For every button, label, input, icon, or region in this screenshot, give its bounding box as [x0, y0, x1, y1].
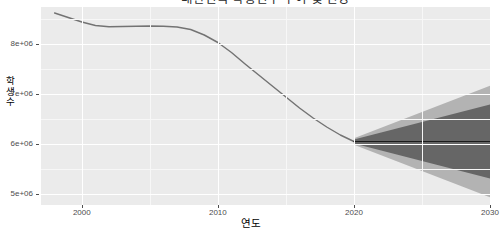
gridline-major-vertical	[82, 7, 83, 205]
x-axis-tick-mark	[490, 205, 491, 208]
x-axis-tick-mark	[354, 205, 355, 208]
gridline-minor-vertical	[150, 7, 151, 205]
y-axis-tick-label: 8e+06	[0, 40, 33, 48]
gridline-minor-vertical	[286, 7, 287, 205]
gridline-major-vertical	[218, 7, 219, 205]
x-axis-tick-mark	[218, 205, 219, 208]
gridline-major-horizontal	[41, 194, 490, 195]
y-axis-tick-mark	[36, 194, 39, 195]
historical-line	[55, 13, 354, 142]
plot-panel	[41, 7, 490, 205]
y-axis-tick-label: 7e+06	[0, 90, 33, 98]
chart-figure: 대한민국 학령인구 추이 및 전망 학 생 수 5e+066e+067e+068…	[0, 0, 501, 235]
x-axis-tick-mark	[82, 205, 83, 208]
gridline-major-vertical	[354, 7, 355, 205]
gridline-minor-vertical	[422, 7, 423, 205]
y-axis-tick-mark	[36, 144, 39, 145]
y-axis-tick-mark	[36, 94, 39, 95]
y-axis-tick-label: 6e+06	[0, 140, 33, 148]
y-axis-title-char: 학	[4, 76, 17, 87]
gridline-major-horizontal	[41, 44, 490, 45]
gridline-major-horizontal	[41, 94, 490, 95]
chart-title: 대한민국 학령인구 추이 및 전망	[41, 0, 490, 7]
x-axis-title: 연도	[0, 215, 501, 230]
y-axis-title-char: 수	[4, 97, 17, 108]
y-axis-tick-label: 5e+06	[0, 190, 33, 198]
y-axis-tick-mark	[36, 44, 39, 45]
gridline-major-horizontal	[41, 144, 490, 145]
